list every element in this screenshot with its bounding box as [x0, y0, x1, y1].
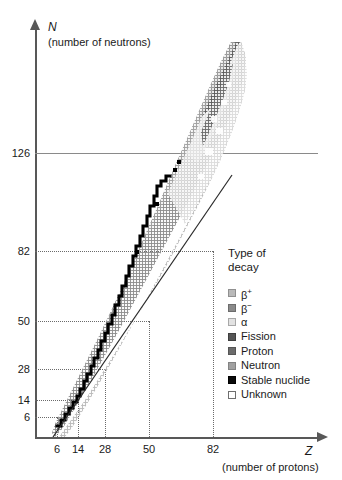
legend-label-fission: Fission: [241, 331, 276, 342]
legend-title: Type of decay: [228, 246, 332, 274]
legend-item-beta-minus[interactable]: β−: [228, 301, 332, 316]
legend-label-beta-plus: β+: [241, 286, 252, 301]
legend-swatch-beta-plus: [228, 289, 236, 297]
x-axis-symbol: Z: [305, 444, 312, 458]
legend-label-alpha: α: [241, 317, 247, 328]
y-tick-label-50: 50: [2, 315, 30, 327]
legend-item-neutron[interactable]: Neutron: [228, 359, 332, 374]
legend-title-line1: Type of: [228, 246, 332, 260]
x-axis-description: (number of protons): [222, 461, 319, 473]
x-tick-label-14: 14: [63, 443, 93, 455]
x-tick-label-28: 28: [90, 443, 120, 455]
legend-swatch-alpha: [228, 318, 236, 326]
legend-label-stable-nuclide: Stable nuclide: [241, 375, 310, 386]
nuclide-chart-figure: N (number of neutrons) Z (number of prot…: [0, 0, 342, 480]
legend-swatch-beta-minus: [228, 304, 236, 312]
legend-label-unknown: Unknown: [241, 389, 287, 400]
legend-swatch-proton: [228, 347, 236, 355]
x-axis-line: [35, 437, 318, 439]
legend: Type of decay β+ β− α Fission Proton Neu…: [228, 246, 332, 402]
y-tick-label-14: 14: [2, 394, 30, 406]
legend-swatch-unknown: [228, 391, 236, 399]
legend-item-proton[interactable]: Proton: [228, 344, 332, 359]
legend-label-neutron: Neutron: [241, 360, 280, 371]
y-tick-label-126: 126: [2, 147, 30, 159]
y-tick-label-82: 82: [2, 245, 30, 257]
legend-item-stable-nuclide[interactable]: Stable nuclide: [228, 373, 332, 388]
y-tick-label-28: 28: [2, 363, 30, 375]
legend-swatch-stable-nuclide: [228, 376, 236, 384]
legend-sup-beta-plus: +: [247, 287, 252, 296]
legend-item-unknown[interactable]: Unknown: [228, 388, 332, 403]
legend-label-proton: Proton: [241, 346, 273, 357]
n-equals-z-diagonal-line: [53, 175, 232, 437]
legend-label-beta-minus: β−: [241, 300, 252, 315]
legend-item-beta-plus[interactable]: β+: [228, 286, 332, 301]
legend-swatch-fission: [228, 333, 236, 341]
x-axis-arrow-icon: [317, 432, 328, 442]
legend-item-alpha[interactable]: α: [228, 315, 332, 330]
legend-title-line2: decay: [228, 260, 332, 274]
x-tick-label-50: 50: [134, 443, 164, 455]
x-tick-label-82: 82: [198, 443, 228, 455]
legend-swatch-neutron: [228, 362, 236, 370]
legend-sup-beta-minus: −: [247, 301, 252, 310]
legend-item-fission[interactable]: Fission: [228, 330, 332, 345]
y-tick-label-6: 6: [2, 411, 30, 423]
